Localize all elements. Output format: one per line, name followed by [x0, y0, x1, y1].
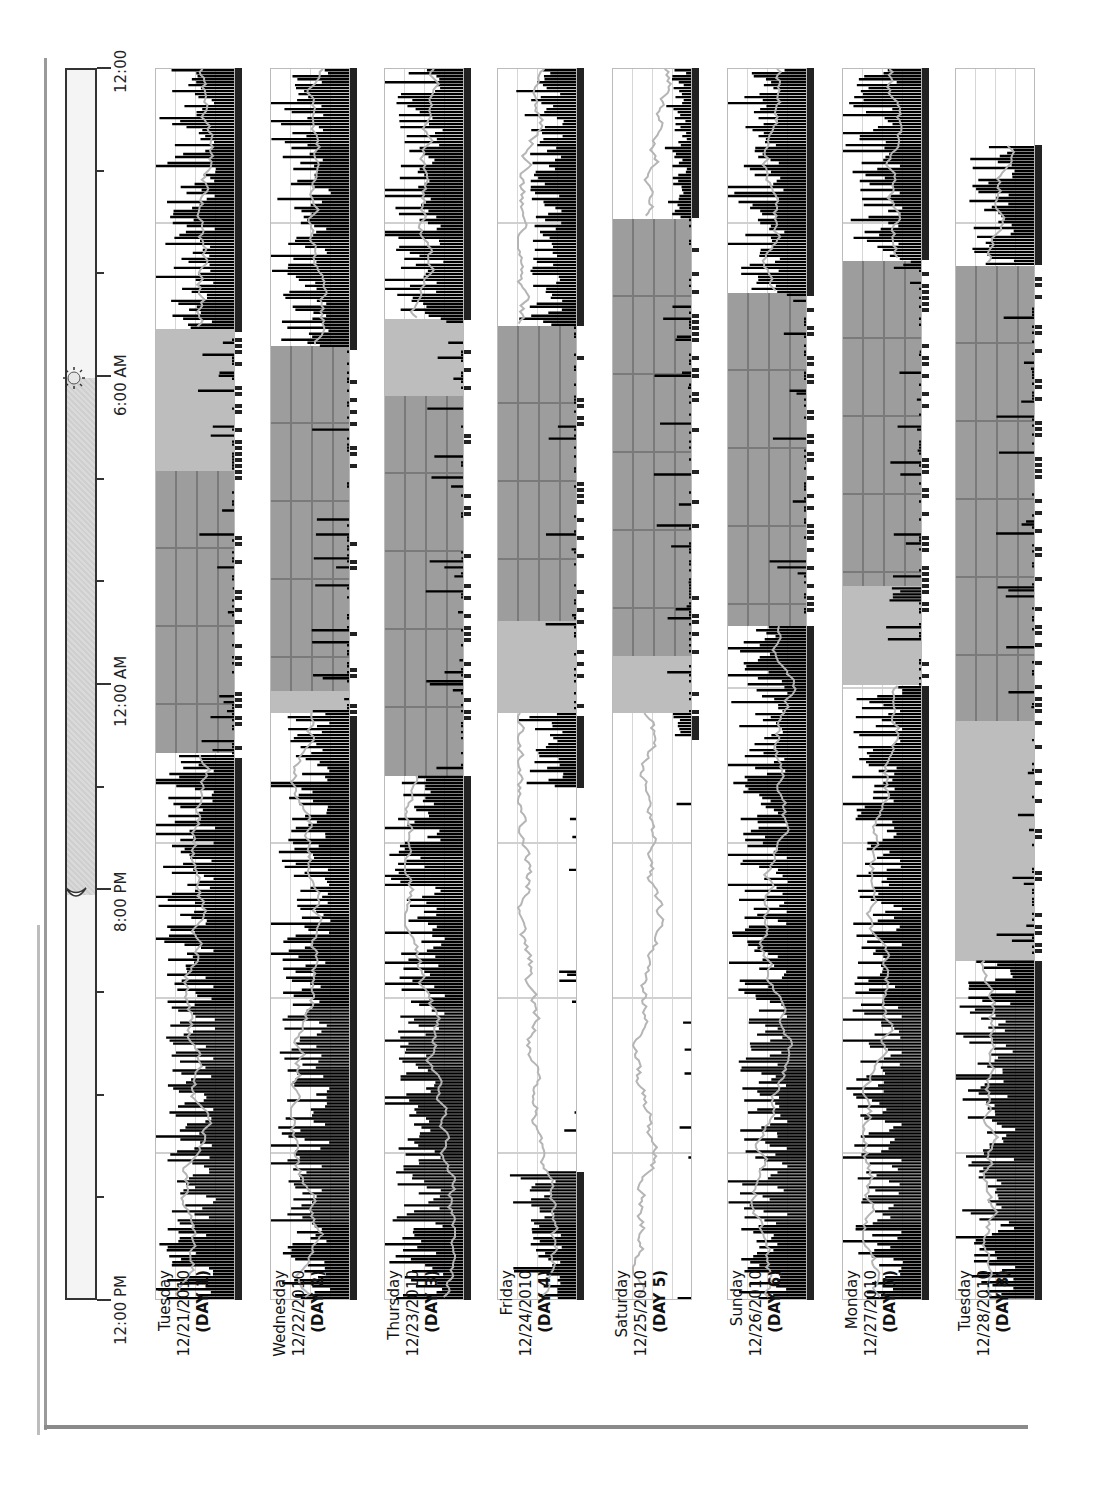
day-label-3: Thursday12/23/2010(DAY 3) — [385, 1270, 442, 1440]
day-label-date: 12/25/2010 — [632, 1270, 651, 1440]
wear-status-strip — [1035, 68, 1043, 1300]
time-tick — [97, 580, 104, 582]
time-tick — [97, 375, 111, 377]
day-label-day: (DAY 7) — [881, 1270, 900, 1440]
day-label-date: 12/23/2010 — [404, 1270, 423, 1440]
time-tick — [97, 478, 104, 480]
activity-chart — [270, 68, 350, 1300]
activity-bars — [956, 69, 1035, 1299]
day-label-date: 12/26/2010 — [747, 1270, 766, 1440]
day-label-8: Tuesday12/28/2010(DAY 8) — [956, 1270, 1013, 1440]
day-label-day: (DAY 4) — [536, 1270, 555, 1440]
wear-status-strip — [235, 68, 243, 1300]
day-label-day: (DAY 5) — [651, 1270, 670, 1440]
day-panel-2 — [270, 68, 360, 1300]
wear-status-strip — [464, 68, 472, 1300]
sun-icon — [62, 366, 86, 390]
day-label-weekday: Monday — [843, 1270, 862, 1440]
day-label-weekday: Wednesday — [271, 1270, 290, 1440]
day-night-bar — [65, 68, 97, 1300]
wear-status-strip — [577, 68, 585, 1300]
day-panel-5 — [612, 68, 702, 1300]
day-label-4: Friday12/24/2010(DAY 4) — [498, 1270, 555, 1440]
activity-bars — [728, 69, 807, 1299]
time-tick — [97, 1196, 104, 1198]
activity-chart — [612, 68, 692, 1300]
day-label-day: (DAY 6) — [766, 1270, 785, 1440]
day-label-day: (DAY 3) — [423, 1270, 442, 1440]
day-label-weekday: Tuesday — [956, 1270, 975, 1440]
time-label-12: 12:00 — [112, 50, 130, 93]
window-frame-left-inner — [37, 925, 40, 1435]
activity-chart — [155, 68, 235, 1300]
wear-status-strip — [692, 68, 700, 1300]
time-tick — [97, 991, 104, 993]
day-label-date: 12/28/2010 — [975, 1270, 994, 1440]
day-label-weekday: Thursday — [385, 1270, 404, 1440]
time-label-8pm: 8:00 PM — [112, 872, 130, 932]
time-tick — [97, 1094, 104, 1096]
activity-chart — [842, 68, 922, 1300]
activity-bars — [271, 69, 350, 1299]
day-label-day: (DAY 1) — [194, 1270, 213, 1440]
activity-bars — [843, 69, 922, 1299]
day-label-date: 12/27/2010 — [862, 1270, 881, 1440]
activity-chart — [497, 68, 577, 1300]
night-shade — [67, 378, 95, 895]
activity-bars — [613, 69, 692, 1299]
time-tick — [97, 1299, 111, 1301]
activity-bars — [498, 69, 577, 1299]
day-label-date: 12/21/2010 — [175, 1270, 194, 1440]
time-tick — [97, 170, 104, 172]
day-label-weekday: Tuesday — [156, 1270, 175, 1440]
time-label-12pm: 12:00 PM — [112, 1275, 130, 1345]
day-label-date: 12/22/2010 — [290, 1270, 309, 1440]
day-panel-8 — [955, 68, 1045, 1300]
wear-status-strip — [807, 68, 815, 1300]
day-label-day: (DAY 8) — [994, 1270, 1013, 1440]
day-panel-4 — [497, 68, 587, 1300]
day-label-7: Monday12/27/2010(DAY 7) — [843, 1270, 900, 1440]
activity-chart — [384, 68, 464, 1300]
time-tick — [97, 272, 104, 274]
day-label-weekday: Saturday — [613, 1270, 632, 1440]
activity-bars — [156, 69, 235, 1299]
wear-status-strip — [350, 68, 358, 1300]
day-panel-1 — [155, 68, 245, 1300]
moon-icon — [64, 884, 88, 904]
activity-chart — [727, 68, 807, 1300]
window-frame-left-outer — [44, 58, 47, 1430]
day-panel-3 — [384, 68, 474, 1300]
day-label-weekday: Friday — [498, 1270, 517, 1440]
wear-status-strip — [922, 68, 930, 1300]
time-tick — [97, 786, 104, 788]
day-label-6: Sunday12/26/2010(DAY 6) — [728, 1270, 785, 1440]
day-label-2: Wednesday12/22/2010(DAY 2) — [271, 1270, 328, 1440]
day-label-date: 12/24/2010 — [517, 1270, 536, 1440]
time-tick — [97, 683, 111, 685]
activity-bars — [385, 69, 464, 1299]
day-panel-7 — [842, 68, 932, 1300]
time-label-6am: 6:00 AM — [112, 354, 130, 416]
time-label-12am: 12:00 AM — [112, 656, 130, 727]
day-panel-6 — [727, 68, 817, 1300]
day-label-5: Saturday12/25/2010(DAY 5) — [613, 1270, 670, 1440]
time-tick — [97, 67, 111, 69]
day-label-weekday: Sunday — [728, 1270, 747, 1440]
day-label-1: Tuesday12/21/2010(DAY 1) — [156, 1270, 213, 1440]
time-tick — [97, 888, 111, 890]
day-label-day: (DAY 2) — [309, 1270, 328, 1440]
activity-chart — [955, 68, 1035, 1300]
